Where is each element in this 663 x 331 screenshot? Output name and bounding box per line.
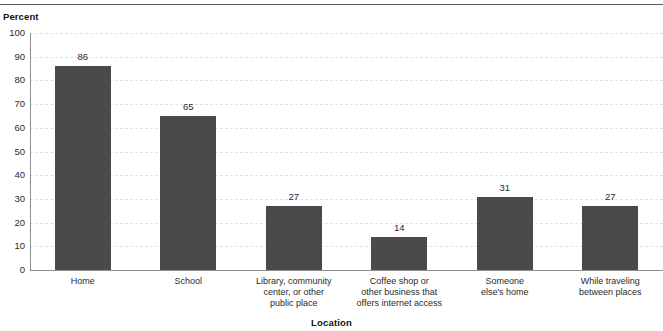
x-axis-line [30,270,663,271]
y-axis-tick-label: 80 [0,74,25,85]
x-axis-category-label: While travelingbetween places [558,276,663,298]
bar-value-label: 14 [369,222,429,233]
x-axis-category-label-line: School [136,276,242,287]
gridline [30,104,663,105]
x-axis-category-label: Someoneelse's home [452,276,558,298]
bar [55,66,111,270]
bar-value-label: 65 [158,101,218,112]
y-axis-tick-label: 20 [0,217,25,228]
bar-value-label: 27 [264,191,324,202]
header-divider [0,4,663,5]
x-axis-category-label-line: center, or other [241,287,347,298]
y-axis-tick-label: 90 [0,51,25,62]
gridline [30,33,663,34]
gridline [30,128,663,129]
y-axis-tick-label: 100 [0,27,25,38]
x-axis-category-label: Home [30,276,136,287]
x-axis-category-label: Coffee shop orother business thatoffers … [347,276,453,309]
bar [160,116,216,270]
bar [582,206,638,270]
bar [371,237,427,270]
bar [266,206,322,270]
x-axis-category-label-line: Library, community [241,276,347,287]
gridline [30,57,663,58]
x-axis-category-label-line: Home [30,276,136,287]
x-axis-category-label-line: offers internet access [347,298,453,309]
x-axis-category-label-line: While traveling [558,276,663,287]
bar-value-label: 31 [475,182,535,193]
gridline [30,246,663,247]
x-axis-category-label-line: Someone [452,276,558,287]
gridline [30,175,663,176]
x-axis-category-label: Library, communitycenter, or otherpublic… [241,276,347,309]
y-axis-tick-label: 10 [0,240,25,251]
y-axis-line [30,33,31,271]
x-axis-title: Location [0,317,663,328]
bar-chart: Percent 0102030405060708090100 866527143… [0,0,663,331]
y-axis-title: Percent [3,11,39,22]
y-axis-tick-label: 40 [0,169,25,180]
bar [477,197,533,270]
gridline [30,199,663,200]
x-axis-category-label-line: Coffee shop or [347,276,453,287]
gridline [30,223,663,224]
plot-area [30,33,663,270]
gridline [30,80,663,81]
x-axis-category-label-line: public place [241,298,347,309]
y-axis-tick-label: 50 [0,146,25,157]
x-axis-category-label-line: else's home [452,287,558,298]
bar-value-label: 86 [53,51,113,62]
bar-value-label: 27 [580,191,640,202]
gridline [30,152,663,153]
y-axis-tick-label: 70 [0,98,25,109]
y-axis-tick-label: 30 [0,193,25,204]
x-axis-category-label-line: between places [558,287,663,298]
x-axis-category-label: School [136,276,242,287]
y-axis-tick-label: 60 [0,122,25,133]
x-axis-category-label-line: other business that [347,287,453,298]
y-axis-tick-label: 0 [0,264,25,275]
